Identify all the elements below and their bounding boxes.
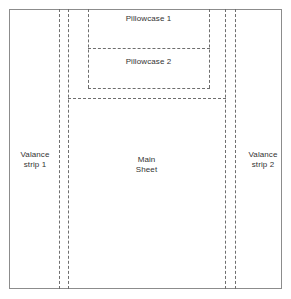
valance-2-outer-cut-line bbox=[235, 9, 236, 289]
valance-1-outer-cut-line bbox=[59, 9, 60, 289]
pillowcase-1-label: Pillowcase 1 bbox=[88, 14, 209, 24]
main-sheet-label: Main Sheet bbox=[110, 155, 183, 175]
valance-2-inner-cut-line bbox=[225, 9, 226, 289]
main-sheet-top-cut-line bbox=[68, 98, 226, 99]
pillowcase-divider-cut-line bbox=[88, 48, 210, 49]
valance-1-inner-cut-line bbox=[68, 9, 69, 289]
fabric-cutting-layout-diagram: Pillowcase 1 Pillowcase 2 Main Sheet Val… bbox=[0, 0, 291, 299]
valance-strip-1-label: Valance strip 1 bbox=[12, 150, 58, 170]
pillowcase-2-label: Pillowcase 2 bbox=[88, 57, 209, 67]
valance-strip-2-label: Valance strip 2 bbox=[240, 150, 286, 170]
pillowcase-bottom-cut-line bbox=[88, 88, 210, 89]
fabric-outer-edge bbox=[9, 9, 282, 289]
